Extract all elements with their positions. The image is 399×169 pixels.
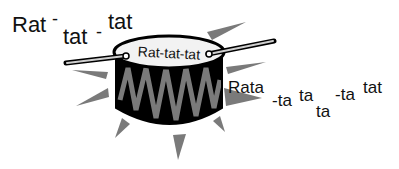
svg-text:Rata: Rata: [228, 78, 264, 97]
drum-illustration: Rat-tat-tat Rat - tat - tat Rata -ta ta …: [0, 0, 399, 169]
svg-text:tat: tat: [63, 24, 87, 49]
drum-head-text: Rat-tat-tat: [137, 43, 200, 62]
svg-text:-ta: -ta: [272, 91, 292, 110]
svg-text:Rat: Rat: [12, 12, 46, 37]
svg-text:ta: ta: [316, 102, 331, 121]
svg-text:-ta: -ta: [335, 85, 355, 104]
svg-text:tat: tat: [108, 9, 132, 34]
left-sound-text: Rat - tat - tat: [12, 9, 132, 49]
svg-text:-: -: [52, 9, 58, 29]
svg-text:tat: tat: [363, 78, 382, 97]
svg-text:-: -: [96, 22, 102, 42]
svg-text:ta: ta: [299, 86, 314, 105]
